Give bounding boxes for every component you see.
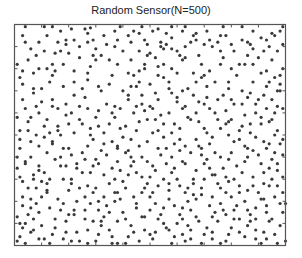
sensor-point xyxy=(224,109,227,112)
sensor-point xyxy=(129,224,132,227)
sensor-point xyxy=(279,83,282,86)
sensor-point xyxy=(205,226,208,229)
sensor-point xyxy=(132,111,135,114)
sensor-point xyxy=(124,217,127,220)
sensor-point xyxy=(184,105,187,108)
sensor-point xyxy=(219,63,222,66)
sensor-point xyxy=(151,107,154,110)
sensor-point xyxy=(54,52,57,55)
sensor-point xyxy=(249,91,252,94)
sensor-point xyxy=(18,129,21,132)
sensor-point xyxy=(121,211,124,214)
sensor-point xyxy=(195,38,198,41)
sensor-point xyxy=(227,158,230,161)
sensor-point xyxy=(94,240,97,243)
sensor-point xyxy=(227,233,230,236)
sensor-point xyxy=(167,189,170,192)
sensor-point xyxy=(111,111,114,114)
sensor-point xyxy=(276,184,279,187)
sensor-point xyxy=(159,114,162,117)
sensor-point xyxy=(170,47,173,50)
sensor-point xyxy=(157,98,160,101)
sensor-point xyxy=(24,41,27,44)
sensor-point xyxy=(181,58,184,61)
sensor-point xyxy=(148,195,151,198)
sensor-point xyxy=(213,211,216,214)
sensor-point xyxy=(211,195,214,198)
sensor-point xyxy=(75,231,78,234)
sensor-point xyxy=(86,184,89,187)
sensor-point xyxy=(86,41,89,44)
sensor-point xyxy=(176,96,179,99)
sensor-point xyxy=(16,116,19,119)
sensor-point xyxy=(56,125,59,128)
sensor-point xyxy=(62,63,65,66)
sensor-point xyxy=(273,34,276,37)
sensor-point xyxy=(205,85,208,88)
sensor-point xyxy=(151,131,154,134)
sensor-point xyxy=(181,160,184,163)
sensor-point xyxy=(268,80,271,83)
sensor-point xyxy=(257,98,260,101)
sensor-point xyxy=(232,178,235,181)
sensor-point xyxy=(270,118,273,121)
sensor-point xyxy=(213,151,216,154)
sensor-point xyxy=(116,220,119,223)
sensor-point xyxy=(265,85,268,88)
sensor-point xyxy=(121,49,124,52)
sensor-point xyxy=(59,30,62,33)
sensor-point xyxy=(37,169,40,172)
sensor-point xyxy=(230,98,233,101)
sensor-point xyxy=(162,47,165,50)
sensor-point xyxy=(48,80,51,83)
sensor-point xyxy=(165,226,168,229)
sensor-point xyxy=(195,138,198,141)
sensor-point xyxy=(246,147,249,150)
sensor-point xyxy=(195,111,198,114)
sensor-point xyxy=(224,122,227,125)
sensor-point xyxy=(230,67,233,70)
sensor-point xyxy=(192,193,195,196)
sensor-point xyxy=(138,49,141,52)
sensor-point xyxy=(29,156,32,159)
sensor-point xyxy=(124,186,127,189)
sensor-point xyxy=(113,30,116,33)
sensor-point xyxy=(224,175,227,178)
sensor-point xyxy=(170,131,173,134)
sensor-point xyxy=(224,34,227,37)
sensor-point xyxy=(200,63,203,66)
sensor-point xyxy=(51,63,54,66)
sensor-point xyxy=(129,164,132,167)
sensor-point xyxy=(197,100,200,103)
sensor-point xyxy=(73,209,76,212)
sensor-point xyxy=(265,211,268,214)
sensor-point xyxy=(268,45,271,48)
sensor-point xyxy=(216,98,219,101)
sensor-point xyxy=(184,56,187,59)
sensor-point xyxy=(195,169,198,172)
sensor-point xyxy=(268,220,271,223)
sensor-point xyxy=(222,94,225,97)
sensor-point xyxy=(173,204,176,207)
sensor-point xyxy=(32,72,35,75)
sensor-point xyxy=(208,142,211,145)
sensor-point xyxy=(64,114,67,117)
sensor-point xyxy=(200,186,203,189)
sensor-point xyxy=(75,162,78,165)
sensor-point xyxy=(27,58,30,61)
sensor-point xyxy=(100,149,103,152)
sensor-point xyxy=(56,129,59,132)
sensor-point xyxy=(21,34,24,37)
sensor-point xyxy=(100,220,103,223)
sensor-point xyxy=(86,32,89,35)
sensor-point xyxy=(116,38,119,41)
sensor-point xyxy=(203,74,206,77)
sensor-point xyxy=(97,162,100,165)
sensor-point xyxy=(205,96,208,99)
sensor-point xyxy=(67,189,70,192)
sensor-point xyxy=(241,171,244,174)
sensor-point xyxy=(124,125,127,128)
sensor-point xyxy=(232,217,235,220)
sensor-point xyxy=(205,30,208,33)
sensor-point xyxy=(205,131,208,134)
